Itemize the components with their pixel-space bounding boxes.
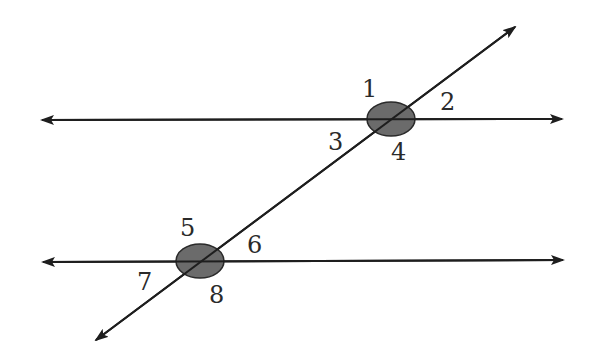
angle-label-4: 4 [391,138,406,166]
angle-label-7: 7 [137,268,152,296]
angle-label-2: 2 [440,88,455,116]
lines-group [42,27,563,340]
intersections-group [42,27,563,340]
parallel-line-top-overlay [42,119,562,120]
transversal-overlay [96,27,515,340]
angle-label-6: 6 [247,231,262,259]
parallel-line-bottom-overlay [43,260,563,262]
angle-label-8: 8 [209,281,224,309]
angle-label-3: 3 [328,128,343,156]
diagram-svg: 12345678 [0,0,595,364]
angle-label-5: 5 [180,214,195,242]
diagram-canvas: 12345678 [0,0,595,364]
angle-label-1: 1 [362,75,377,103]
